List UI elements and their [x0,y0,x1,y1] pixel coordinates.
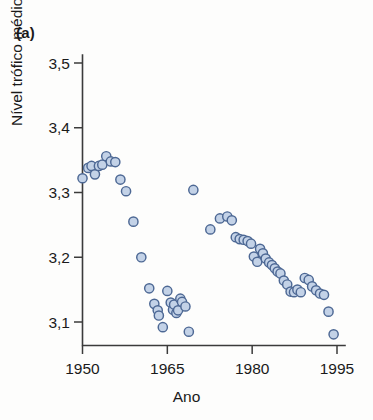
data-point [324,307,333,316]
data-point [319,290,328,299]
data-point [163,286,172,295]
y-tick-label: 3,3 [48,184,70,201]
data-point [158,323,167,332]
x-tick-labels: 1950196519801995 [65,360,354,377]
data-point [78,174,87,183]
x-tick-label: 1950 [65,360,100,377]
data-point [246,239,255,248]
data-point [121,187,130,196]
scatter-plot: 3,13,23,33,43,5 1950196519801995 [0,0,373,420]
data-points [78,152,338,339]
y-tick-label: 3,1 [48,314,70,331]
x-tick-label: 1995 [320,360,354,377]
axis-lines [83,55,346,346]
x-tick-marks [83,346,338,355]
data-point [111,157,120,166]
figure-panel-a: (a) Nível trófico médio Ano 3,13,23,33,4… [0,0,373,420]
data-point [296,288,305,297]
data-point [181,302,190,311]
data-point [137,253,146,262]
data-point [129,217,138,226]
y-tick-label: 3,5 [48,55,70,72]
data-point [329,330,338,339]
y-tick-marks [74,63,83,322]
data-point [145,284,154,293]
x-tick-label: 1965 [150,360,184,377]
axis-spines [83,55,346,346]
x-tick-label: 1980 [235,360,270,377]
data-point [189,185,198,194]
data-point [206,225,215,234]
y-tick-label: 3,4 [48,119,70,136]
data-point [184,327,193,336]
data-point [227,216,236,225]
data-point [154,311,163,320]
y-tick-labels: 3,13,23,33,43,5 [48,55,70,331]
y-tick-label: 3,2 [48,249,70,266]
data-point [116,175,125,184]
